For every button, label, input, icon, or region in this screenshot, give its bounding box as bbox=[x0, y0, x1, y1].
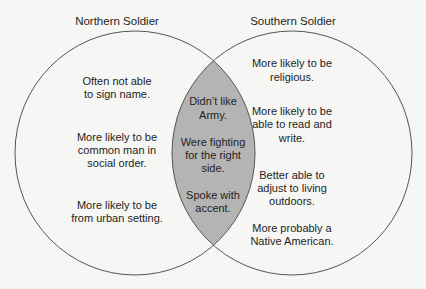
item-line: for the right bbox=[185, 149, 241, 161]
southern-item: Better able to adjust to living outdoors… bbox=[257, 169, 327, 207]
item-line: able to read and bbox=[252, 118, 332, 130]
southern-item: More likely to be able to read and write… bbox=[252, 105, 332, 144]
venn-diagram: Northern Soldier Southern Soldier Often … bbox=[0, 0, 426, 289]
item-line: Didn’t like bbox=[189, 95, 237, 107]
item-line: Better able to bbox=[259, 169, 324, 181]
item-line: write. bbox=[278, 132, 305, 144]
northern-item: More likely to be from urban setting. bbox=[71, 199, 163, 224]
southern-soldier-title: Southern Soldier bbox=[250, 15, 336, 27]
item-line: Spoke with bbox=[186, 189, 240, 201]
item-line: social order. bbox=[87, 157, 146, 169]
item-line: Native American. bbox=[250, 235, 333, 247]
item-line: Often not able bbox=[82, 75, 151, 87]
item-line: religious. bbox=[270, 71, 314, 83]
southern-item: More probably a Native American. bbox=[250, 222, 333, 247]
item-line: More likely to be bbox=[252, 105, 332, 117]
item-line: More likely to be bbox=[252, 57, 332, 69]
item-line: side. bbox=[201, 162, 224, 174]
item-line: More likely to be bbox=[77, 131, 157, 143]
item-line: outdoors. bbox=[269, 195, 315, 207]
northern-soldier-title: Northern Soldier bbox=[75, 15, 159, 27]
item-line: common man in bbox=[78, 144, 156, 156]
item-line: Army. bbox=[199, 109, 227, 121]
item-line: More probably a bbox=[252, 222, 332, 234]
item-line: More likely to be bbox=[77, 199, 157, 211]
item-line: to sign name. bbox=[84, 88, 150, 100]
northern-item: More likely to be common man in social o… bbox=[77, 131, 157, 169]
item-line: Were fighting bbox=[181, 136, 246, 148]
southern-item: More likely to be religious. bbox=[252, 57, 332, 83]
item-line: adjust to living bbox=[257, 182, 327, 194]
item-line: accent. bbox=[195, 202, 230, 214]
northern-item: Often not able to sign name. bbox=[82, 75, 151, 100]
item-line: from urban setting. bbox=[71, 212, 163, 224]
